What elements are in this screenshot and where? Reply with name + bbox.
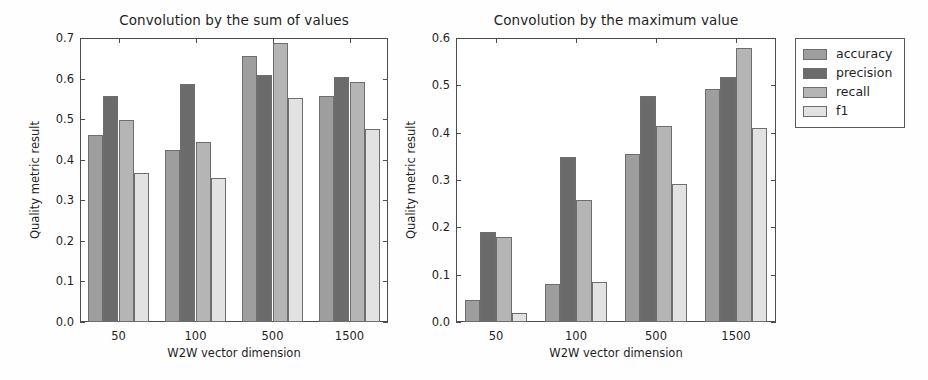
x-tick-mark — [119, 38, 120, 43]
chart-title-right: Convolution by the maximum value — [456, 12, 776, 28]
x-axis-label-right: W2W vector dimension — [456, 346, 776, 360]
bar-f1 — [592, 282, 608, 322]
bar-f1 — [512, 313, 528, 322]
chart-left-sum-of-values: Convolution by the sum of values Quality… — [80, 38, 388, 322]
legend-swatch-f1 — [803, 106, 827, 117]
y-tick-mark — [456, 38, 461, 39]
bar-precision — [560, 157, 576, 322]
y-tick-mark — [383, 200, 388, 201]
x-tick-label: 100 — [185, 329, 207, 343]
figure-canvas: Convolution by the sum of values Quality… — [0, 0, 928, 380]
bar-accuracy — [242, 56, 257, 322]
legend: accuracyprecisionrecallf1 — [795, 38, 905, 128]
y-tick-mark — [80, 322, 85, 323]
y-tick-mark — [80, 281, 85, 282]
y-tick-mark — [80, 79, 85, 80]
y-tick-mark — [771, 133, 776, 134]
y-tick-mark — [80, 241, 85, 242]
x-tick-mark — [496, 38, 497, 43]
y-tick-mark — [456, 275, 461, 276]
x-tick-mark — [576, 38, 577, 43]
y-tick-label: 0.0 — [416, 315, 450, 329]
legend-item-f1[interactable]: f1 — [803, 102, 895, 121]
legend-swatch-accuracy — [803, 49, 827, 60]
y-tick-label: 0.4 — [40, 153, 74, 167]
y-tick-label: 0.4 — [416, 126, 450, 140]
y-tick-label: 0.6 — [416, 31, 450, 45]
bar-f1 — [211, 178, 226, 322]
y-tick-mark — [456, 227, 461, 228]
x-tick-label: 1500 — [721, 329, 750, 343]
legend-item-accuracy[interactable]: accuracy — [803, 45, 895, 64]
y-tick-mark — [80, 160, 85, 161]
y-tick-mark — [456, 85, 461, 86]
bar-recall — [196, 142, 211, 322]
bar-f1 — [288, 98, 303, 322]
legend-swatch-precision — [803, 68, 827, 79]
bar-recall — [736, 48, 752, 322]
y-tick-mark — [80, 119, 85, 120]
y-tick-mark — [771, 322, 776, 323]
x-tick-mark — [350, 38, 351, 43]
x-axis-label-left: W2W vector dimension — [80, 346, 388, 360]
bar-precision — [640, 96, 656, 322]
y-tick-mark — [771, 85, 776, 86]
bar-recall — [496, 237, 512, 322]
bar-accuracy — [88, 135, 103, 322]
x-tick-label: 500 — [262, 329, 284, 343]
y-tick-mark — [771, 275, 776, 276]
y-tick-mark — [456, 133, 461, 134]
y-tick-mark — [80, 38, 85, 39]
y-tick-label: 0.6 — [40, 72, 74, 86]
bar-precision — [720, 77, 736, 322]
x-tick-mark — [273, 38, 274, 43]
y-tick-mark — [80, 200, 85, 201]
legend-item-recall[interactable]: recall — [803, 83, 895, 102]
bar-precision — [480, 232, 496, 322]
bar-accuracy — [465, 300, 481, 322]
legend-swatch-recall — [803, 87, 827, 98]
x-tick-mark — [196, 38, 197, 43]
x-tick-label: 100 — [565, 329, 587, 343]
chart-title-left: Convolution by the sum of values — [80, 12, 388, 28]
y-tick-label: 0.1 — [40, 274, 74, 288]
y-tick-label: 0.2 — [416, 220, 450, 234]
y-axis-label-left: Quality metric result — [28, 121, 42, 239]
y-tick-mark — [456, 180, 461, 181]
y-tick-label: 0.5 — [40, 112, 74, 126]
bar-f1 — [134, 173, 149, 322]
bar-accuracy — [165, 150, 180, 322]
y-tick-label: 0.7 — [40, 31, 74, 45]
bar-f1 — [672, 184, 688, 322]
x-tick-label: 500 — [645, 329, 667, 343]
bar-recall — [656, 126, 672, 322]
y-tick-label: 0.1 — [416, 268, 450, 282]
x-tick-label: 50 — [489, 329, 504, 343]
y-tick-label: 0.0 — [40, 315, 74, 329]
y-tick-mark — [771, 38, 776, 39]
y-tick-mark — [383, 281, 388, 282]
y-tick-mark — [456, 322, 461, 323]
y-tick-mark — [383, 322, 388, 323]
y-tick-label: 0.5 — [416, 78, 450, 92]
y-tick-mark — [383, 79, 388, 80]
x-tick-label: 50 — [111, 329, 126, 343]
y-tick-mark — [383, 38, 388, 39]
y-tick-label: 0.3 — [416, 173, 450, 187]
bar-accuracy — [319, 96, 334, 322]
legend-item-precision[interactable]: precision — [803, 64, 895, 83]
bar-recall — [576, 200, 592, 322]
bar-f1 — [365, 129, 380, 322]
legend-label: f1 — [836, 105, 848, 118]
legend-label: precision — [836, 67, 892, 80]
x-tick-mark — [656, 38, 657, 43]
bar-precision — [103, 96, 118, 322]
legend-label: accuracy — [836, 48, 892, 61]
bar-precision — [180, 84, 195, 322]
y-tick-mark — [383, 119, 388, 120]
y-tick-label: 0.3 — [40, 193, 74, 207]
x-tick-label: 1500 — [335, 329, 364, 343]
bar-recall — [119, 120, 134, 322]
y-tick-label: 0.2 — [40, 234, 74, 248]
legend-label: recall — [836, 86, 870, 99]
